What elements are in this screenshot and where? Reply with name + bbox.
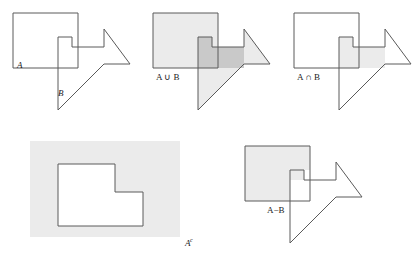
figure-root: A B A ∪ B A ∩ B A c A−B xyxy=(0,0,412,261)
intersection-fill xyxy=(339,37,385,68)
panel-a-complement: A c xyxy=(20,133,205,261)
label-a-union-b: A ∪ B xyxy=(156,72,180,82)
label-a-complement-superscript: c xyxy=(190,237,193,243)
panel-a-intersect-b: A ∩ B xyxy=(281,0,412,128)
panel-sets-a-and-b: A B xyxy=(0,0,140,128)
panel-a-union-b: A ∪ B xyxy=(140,0,285,128)
panel-a-minus-b: A−B xyxy=(232,133,412,261)
intersection-fill xyxy=(198,37,244,68)
arrow-b-outline xyxy=(58,29,130,110)
label-a-intersect-b: A ∩ B xyxy=(297,72,320,82)
label-a-minus-b: A−B xyxy=(267,205,285,215)
square-a-outline xyxy=(13,13,78,68)
a-minus-b-fill-notch xyxy=(290,170,304,180)
label-set-a: A xyxy=(16,60,23,70)
label-set-b: B xyxy=(58,88,64,98)
